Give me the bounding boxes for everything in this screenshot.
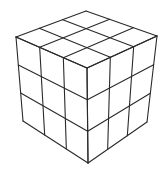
cube-diagram xyxy=(0,0,168,173)
cube-faces xyxy=(16,11,157,163)
